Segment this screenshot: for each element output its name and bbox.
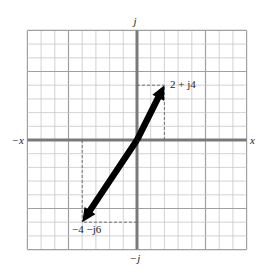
axis-label-pos-imag: j — [131, 15, 136, 27]
vector-label-2-j4: 2 + j4 — [170, 78, 196, 90]
axis-label-pos-real: x — [249, 134, 255, 146]
axis-label-neg-real: −x — [12, 134, 24, 146]
axis-label-neg-imag: −j — [130, 252, 140, 264]
vector-arrow — [82, 138, 139, 222]
vector-arrow — [134, 85, 164, 141]
vector-label-neg4-neg-j6: −4 −j6 — [72, 223, 102, 235]
complex-plane-diagram: j −j −x x 2 + j4 −4 −j6 — [0, 0, 268, 277]
